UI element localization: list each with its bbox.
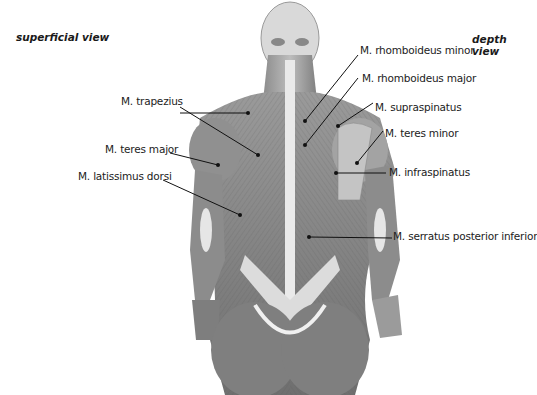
label-supraspinatus: M. supraspinatus [375,101,461,113]
label-serratus-posterior-inferior: M. serratus posterior inferior [393,230,537,242]
label-infraspinatus: M. infraspinatus [389,166,470,178]
label-trapezius: M. trapezius [121,95,183,107]
label-rhomboideus-minor: M. rhomboideus minor [360,44,474,56]
label-teres-major: M. teres major [105,143,178,155]
label-latissimus-dorsi: M. latissimus dorsi [78,170,172,182]
label-rhomboideus-major: M. rhomboideus major [362,72,476,84]
label-teres-minor: M. teres minor [385,127,458,139]
